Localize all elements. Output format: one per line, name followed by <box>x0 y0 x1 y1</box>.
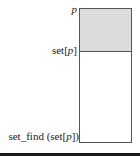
label-set-p: set[p] <box>52 44 77 56</box>
memory-block <box>79 8 132 143</box>
label-set-find: set_find (set[p]) <box>8 130 79 142</box>
shaded-region <box>80 9 131 52</box>
label-p: p <box>72 3 78 15</box>
bottom-rule <box>0 153 140 156</box>
